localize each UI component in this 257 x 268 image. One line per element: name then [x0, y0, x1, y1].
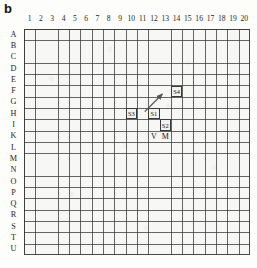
figure-panel-b: b 1234567891011121314151617181920 ABCDEF… — [0, 0, 257, 268]
row-label-T: T — [6, 233, 21, 242]
row-label-R: R — [6, 210, 21, 219]
row-label-B: B — [6, 41, 21, 50]
cell-marker-S3: S3 — [126, 108, 137, 119]
row-label-L: L — [6, 143, 21, 152]
row-label-D: D — [6, 64, 21, 73]
row-label-G: G — [6, 97, 21, 106]
row-label-P: P — [6, 188, 21, 197]
cell-marker-S2: S2 — [160, 119, 171, 130]
row-label-O: O — [6, 177, 21, 186]
row-label-I: I — [6, 120, 21, 129]
cell-marker-S1: S1 — [148, 108, 159, 119]
row-label-F: F — [6, 86, 21, 95]
row-label-E: E — [6, 75, 21, 84]
panel-label: b — [4, 2, 12, 16]
row-label-N: N — [6, 165, 21, 174]
row-label-Q: Q — [6, 199, 21, 208]
row-label-K: K — [6, 131, 21, 140]
row-label-H: H — [6, 109, 21, 118]
row-label-S: S — [6, 222, 21, 231]
grid-container: S4S3S1S2VM — [24, 29, 250, 255]
row-label-M: M — [6, 154, 21, 163]
row-label-C: C — [6, 52, 21, 61]
cell-marker-M: M — [160, 131, 171, 142]
row-label-U: U — [6, 244, 21, 253]
cell-marker-V: V — [148, 131, 159, 142]
row-label-A: A — [6, 30, 21, 39]
grid-background — [24, 29, 250, 255]
cell-marker-S4: S4 — [171, 86, 182, 97]
column-label-20: 20 — [236, 14, 252, 23]
